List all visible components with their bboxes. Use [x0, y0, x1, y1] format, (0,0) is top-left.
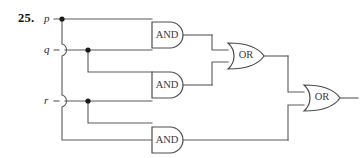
- wire-q-branch-to-and2: [88, 50, 152, 72]
- circuit-wiring: AND AND AND OR OR: [0, 0, 363, 158]
- wire-and1-to-or1: [212, 35, 228, 50]
- wire-r-branch-to-and3: [88, 101, 152, 123]
- or-gate-2-label: OR: [315, 91, 330, 102]
- or-gate-1-label: OR: [239, 49, 254, 60]
- and-gate-2-label: AND: [156, 79, 179, 90]
- junction-dot-r: [85, 98, 90, 103]
- wire-and3-to-or2: [288, 105, 304, 140]
- junction-dot-q: [85, 47, 90, 52]
- wire-and2-to-or1: [212, 62, 228, 85]
- wire-or1-to-or2: [288, 56, 304, 92]
- junction-dot-p: [59, 16, 64, 21]
- logic-circuit-figure: 25. p q r AND AND AND: [0, 0, 363, 158]
- wire-p-branch-to-and3: [62, 19, 152, 140]
- and-gate-1-label: AND: [156, 29, 179, 40]
- and-gate-3-label: AND: [156, 134, 179, 145]
